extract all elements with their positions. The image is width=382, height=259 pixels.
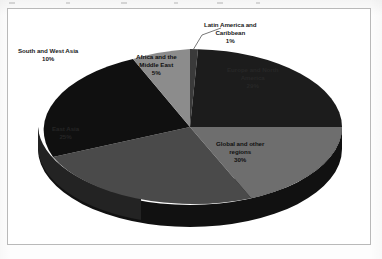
slice-label-global-other: Global and other regions 30% <box>216 140 264 164</box>
slice-label-latin-america: Latin America and Caribbean 1% <box>204 21 257 45</box>
slice-label-south-west-asia: South and West Asia 10% <box>18 47 78 63</box>
slice-label-east-asia: East Asia 25% <box>52 125 79 141</box>
pie-top-face <box>44 49 342 204</box>
plot-area: Latin America and Caribbean 1% South and… <box>8 9 370 244</box>
clipped-text-row <box>6 0 376 6</box>
slice-label-africa-middle-east: Africa and the Middle East 5% <box>136 53 177 77</box>
chart-frame: Latin America and Caribbean 1% South and… <box>7 8 371 245</box>
slice-label-europe-north-america: Europe and North America 29% <box>227 66 278 90</box>
